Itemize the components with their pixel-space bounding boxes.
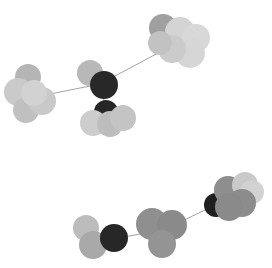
molecule-bottom[interactable] xyxy=(73,172,264,259)
atom-lower-right[interactable] xyxy=(110,105,136,131)
molecule-top[interactable] xyxy=(4,14,210,137)
atom-right-e[interactable] xyxy=(148,31,172,55)
atom-b-right-e[interactable] xyxy=(215,193,243,221)
atom-center-dark[interactable] xyxy=(90,71,118,99)
atom-left-e[interactable] xyxy=(21,80,47,106)
molecule-scene xyxy=(0,0,272,268)
molecule-viewer-canvas[interactable] xyxy=(0,0,272,268)
atom-b-dark[interactable] xyxy=(100,224,128,252)
atom-b-mid-c[interactable] xyxy=(148,230,176,258)
